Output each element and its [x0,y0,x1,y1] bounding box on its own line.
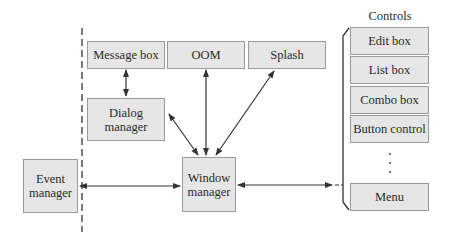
arrow-dialog-window [169,114,198,155]
ellipsis-dot [389,171,391,173]
oom-node: OOM [167,41,245,69]
list-box-node: List box [350,56,429,84]
menu-node: Menu [350,183,429,211]
ellipsis-dot [389,153,391,155]
event-manager-node: Event manager [23,159,78,213]
button-control-node: Button control [350,115,429,143]
edit-box-node: Edit box [350,27,429,55]
splash-node: Splash [248,41,326,69]
arrow-splash-window [216,71,274,155]
message-box-node: Message box [87,41,165,69]
window-manager-node: Window manager [182,157,236,212]
ellipsis-dot [389,162,391,164]
combo-box-node: Combo box [350,86,429,114]
dialog-manager-node: Dialog manager [87,98,165,141]
controls-title: Controls [350,9,430,24]
controls-bracket [343,28,349,210]
